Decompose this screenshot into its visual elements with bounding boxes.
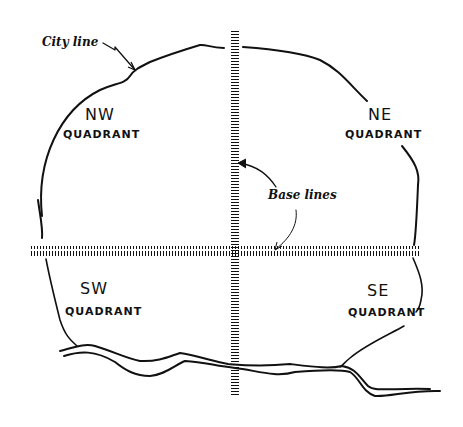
city-line-se-lower (340, 326, 404, 367)
city-line-se (413, 258, 422, 312)
base-lines-arrow-horizontal (276, 210, 296, 249)
vertical-base-line (231, 30, 241, 396)
nw-quadrant-name: NW (85, 107, 115, 123)
city-quadrant-diagram: City line Base lines NW QUADRANT NE QUAD… (0, 0, 463, 427)
city-line-east (402, 146, 418, 245)
se-quadrant-word: QUADRANT (348, 307, 425, 318)
city-line-label: City line (42, 36, 98, 48)
se-quadrant-name: SE (367, 283, 389, 299)
ne-quadrant-name: NE (368, 107, 392, 123)
sw-quadrant-name: SW (80, 281, 108, 297)
ne-quadrant-word: QUADRANT (345, 129, 422, 140)
diagram-drawing (0, 0, 463, 427)
base-lines-label: Base lines (268, 189, 337, 201)
city-line-ne (243, 47, 367, 101)
nw-quadrant-word: QUADRANT (63, 129, 140, 140)
city-line-sw (46, 259, 77, 346)
city-line-pointer-arrow (103, 43, 135, 70)
horizontal-base-line (31, 246, 419, 256)
sw-quadrant-word: QUADRANT (65, 306, 142, 317)
river-bank-north (60, 345, 430, 389)
